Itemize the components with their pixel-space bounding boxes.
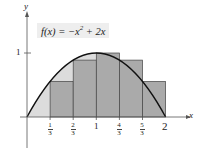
y-tick-label-1: 1: [16, 47, 21, 57]
function-label: f(x) = −x2 + 2x: [37, 23, 109, 38]
function-tail: + 2x: [83, 26, 105, 37]
function-text: f(x) = −x: [41, 26, 80, 37]
x-tick-label-2-3: 23: [68, 122, 78, 137]
x-tick-label-4-3: 43: [114, 122, 124, 137]
y-axis-arrow-icon: [25, 11, 29, 17]
x-ticks: [50, 117, 142, 120]
y-axis-label: y: [24, 1, 28, 11]
x-tick-label-1-3: 13: [45, 122, 55, 137]
x-tick-label-2: 2: [162, 120, 168, 132]
rectangles: [50, 53, 166, 117]
x-axis-label: x: [189, 110, 193, 120]
x-tick-label-1: 1: [94, 121, 99, 131]
x-tick-label-5-3: 53: [137, 122, 147, 137]
